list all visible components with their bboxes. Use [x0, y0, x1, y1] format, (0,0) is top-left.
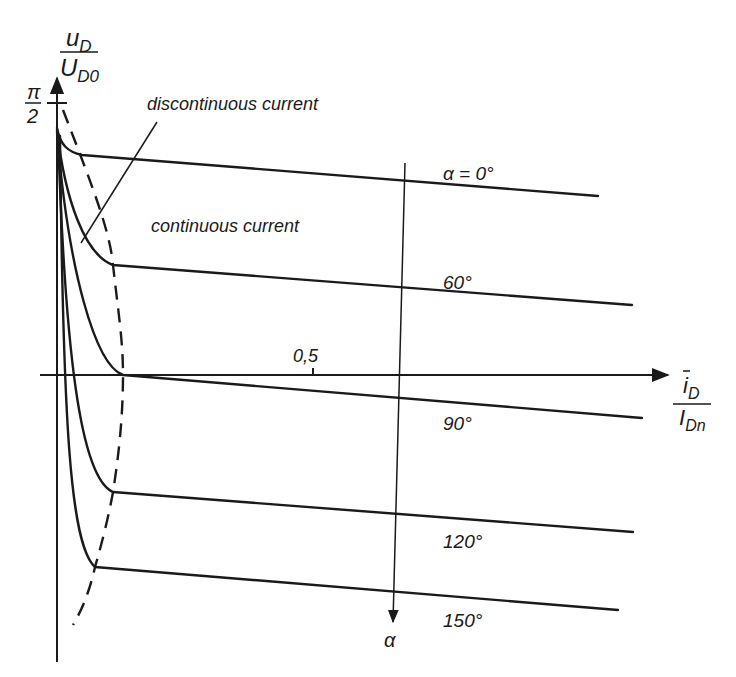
x-label-numerator: iD: [683, 373, 700, 402]
curve-alpha-0: [57, 128, 598, 196]
x-tick-label-0-5: 0,5: [293, 346, 319, 366]
curve-alpha-60: [57, 130, 632, 305]
x-label-denominator: IDn: [679, 405, 706, 434]
pi-half-numerator: π: [27, 81, 41, 103]
alpha-direction-arrow: [393, 163, 405, 622]
label-alpha-0: α = 0°: [443, 163, 494, 184]
pi-half-denominator: 2: [26, 105, 38, 127]
label-alpha-120: 120°: [443, 531, 483, 552]
curve-alpha-150: [60, 136, 618, 610]
y-label-denominator: UD0: [60, 54, 100, 86]
y-label-numerator: uD: [66, 24, 92, 56]
alpha-arrow-label: α: [384, 629, 396, 651]
label-continuous-current: continuous current: [151, 216, 300, 236]
label-alpha-150: 150°: [443, 610, 483, 631]
discontinuous-pointer-line: [81, 122, 157, 243]
label-alpha-90: 90°: [443, 413, 472, 434]
label-discontinuous-current: discontinuous current: [147, 94, 319, 114]
controlled-rectifier-characteristic-chart: uD UD0 π 2 discontinuous current continu…: [0, 0, 736, 677]
label-alpha-60: 60°: [443, 272, 472, 293]
curve-alpha-120: [58, 134, 633, 532]
